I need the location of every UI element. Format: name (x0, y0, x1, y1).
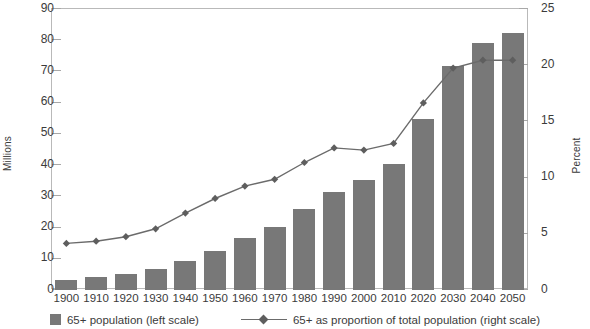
legend-swatch-icon (50, 314, 61, 325)
bar-1910 (85, 277, 107, 289)
y-axis-right-tick-label: 0 (541, 282, 571, 296)
chart-container: Millions Percent 01020304050607080900510… (0, 0, 590, 329)
bar-1990 (323, 192, 345, 289)
y-axis-left-tick-label: 90 (24, 1, 54, 15)
bar-1930 (145, 269, 167, 290)
x-axis-tick-label-2050: 2050 (493, 292, 533, 304)
y-axis-left-tick-label: 40 (24, 157, 54, 171)
y-axis-right-tick-label: 10 (541, 169, 571, 183)
bar-2020 (412, 119, 434, 289)
y-axis-left-tick-label: 60 (24, 94, 54, 108)
bar-2000 (353, 180, 375, 289)
legend-item-line: 65+ as proportion of total population (r… (241, 314, 540, 326)
bar-1940 (174, 261, 196, 289)
legend-label-bar: 65+ population (left scale) (67, 314, 199, 326)
bar-1900 (55, 280, 77, 290)
y-axis-right-tickmark (519, 8, 528, 9)
bar-1960 (234, 238, 256, 290)
legend-label-line: 65+ as proportion of total population (r… (293, 314, 540, 326)
bar-1920 (115, 274, 137, 289)
bar-1970 (264, 227, 286, 290)
y-axis-right-tick-label: 15 (541, 113, 571, 127)
y-axis-left-tick-label: 70 (24, 63, 54, 77)
y-axis-right-tick-label: 25 (541, 1, 571, 15)
legend-item-bar: 65+ population (left scale) (50, 314, 199, 326)
y-axis-left-tick-label: 30 (24, 188, 54, 202)
y-axis-left-tick-label: 80 (24, 32, 54, 46)
bar-1950 (204, 251, 226, 289)
legend-line-marker-icon (241, 315, 287, 325)
bar-2030 (442, 66, 464, 289)
y-axis-right-tick-label: 20 (541, 57, 571, 71)
y-axis-left-tick-label: 10 (24, 250, 54, 264)
bar-1980 (293, 209, 315, 289)
y-axis-left-title: Millions (2, 124, 13, 184)
chart-legend: 65+ population (left scale) 65+ as propo… (0, 310, 590, 329)
y-axis-right-title: Percent (571, 126, 582, 186)
y-axis-right-tick-label: 5 (541, 225, 571, 239)
y-axis-left-tick-label: 20 (24, 219, 54, 233)
bar-2040 (472, 43, 494, 289)
y-axis-left-tick-label: 50 (24, 125, 54, 139)
bar-2010 (383, 164, 405, 290)
bar-2050 (502, 33, 524, 289)
